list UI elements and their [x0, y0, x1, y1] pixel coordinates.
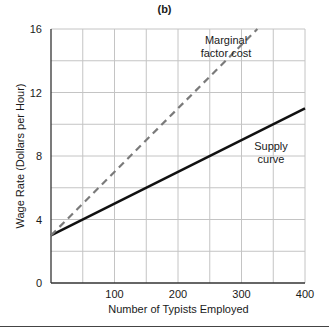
y-tick-8: 8 — [28, 150, 42, 162]
x-tick-200: 200 — [169, 288, 187, 300]
x-tick-100: 100 — [105, 288, 123, 300]
supply-annotation-line1: Supply — [236, 140, 306, 153]
mfc-annotation-line2: factor cost — [186, 47, 266, 60]
chart-plot-area — [0, 0, 329, 332]
y-axis-label: Wage Rate (Dollars per Hour) — [14, 83, 26, 228]
x-axis-label: Number of Typists Employed — [0, 303, 329, 315]
mfc-annotation-line1: Marginal — [186, 34, 266, 47]
y-tick-4: 4 — [28, 214, 42, 226]
x-tick-300: 300 — [232, 288, 250, 300]
y-tick-16: 16 — [28, 23, 42, 35]
panel-label: (b) — [0, 3, 329, 15]
x-tick-400: 400 — [296, 288, 314, 300]
y-tick-12: 12 — [28, 87, 42, 99]
y-tick-0: 0 — [28, 277, 42, 289]
bottom-divider — [0, 326, 329, 327]
supply-annotation: Supply curve — [236, 140, 306, 166]
mfc-annotation: Marginal factor cost — [186, 34, 266, 60]
supply-annotation-line2: curve — [236, 153, 306, 166]
